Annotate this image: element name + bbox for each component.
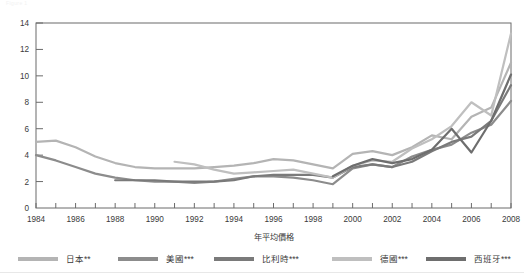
x-tick-label: 2006 [462, 215, 481, 224]
figure-container: Figure 1 0246810121419841986198819901992… [0, 0, 524, 277]
x-tick-label: 1984 [27, 215, 46, 224]
y-tick-label: 10 [20, 72, 30, 81]
y-tick-label: 4 [24, 151, 29, 160]
x-tick-label: 1990 [146, 215, 165, 224]
x-tick-label: 1994 [225, 215, 244, 224]
x-tick-label: 1992 [185, 215, 204, 224]
x-tick-label: 2004 [423, 215, 442, 224]
x-tick-label: 2008 [502, 215, 521, 224]
legend-item-3[interactable]: 德國*** [332, 249, 408, 269]
legend-swatch-icon [426, 257, 466, 261]
legend-item-1[interactable]: 美國*** [118, 249, 194, 269]
legend-item-2[interactable]: 比利時*** [214, 249, 299, 269]
y-tick-label: 12 [20, 45, 30, 54]
line-chart: 0246810121419841986198819901992199419961… [0, 8, 524, 248]
legend-divider [0, 272, 524, 273]
legend-label: 比利時*** [262, 255, 299, 264]
faint-header-text: Figure 1 [6, 0, 28, 6]
chart-plot-area: 0246810121419841986198819901992199419961… [0, 8, 524, 248]
x-tick-label: 1998 [304, 215, 323, 224]
y-tick-label: 6 [24, 125, 29, 134]
x-tick-label: 1988 [106, 215, 125, 224]
x-tick-label: 2000 [344, 215, 363, 224]
y-tick-label: 0 [24, 204, 29, 213]
x-axis-title: 年平均價格 [254, 232, 294, 242]
legend-label: 美國*** [166, 255, 194, 264]
x-tick-label: 1996 [264, 215, 283, 224]
legend-label: 德國*** [380, 255, 408, 264]
legend-label: 日本** [66, 255, 91, 264]
legend-label: 西班牙*** [474, 255, 511, 264]
legend-item-0[interactable]: 日本** [18, 249, 91, 269]
legend-swatch-icon [332, 257, 372, 261]
x-tick-label: 1986 [66, 215, 85, 224]
legend-swatch-icon [18, 257, 58, 261]
x-tick-label: 2002 [383, 215, 402, 224]
plot-frame [36, 23, 511, 208]
y-tick-label: 2 [24, 178, 29, 187]
y-tick-label: 14 [20, 19, 30, 28]
legend-item-4[interactable]: 西班牙*** [426, 249, 511, 269]
legend-swatch-icon [118, 257, 158, 261]
chart-legend: 日本**美國***比利時***德國***西班牙*** [0, 249, 524, 269]
y-tick-label: 8 [24, 98, 29, 107]
legend-swatch-icon [214, 257, 254, 261]
